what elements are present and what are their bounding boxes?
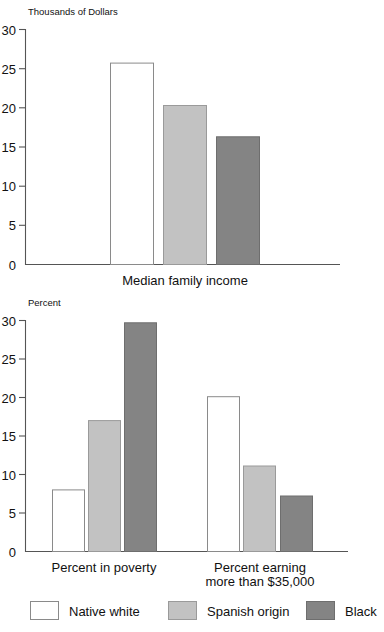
bar-earning-black [281,496,313,552]
chart-median-family-income: Thousands of Dollars 30 25 20 15 10 5 0 … [2,6,340,288]
figure-two-bar-charts: Thousands of Dollars 30 25 20 15 10 5 0 … [0,0,384,632]
bar-poverty-spanish-origin [89,421,121,552]
y-tick-label-bottom-0: 0 [9,545,16,560]
bar-top-spanish-origin [164,106,207,265]
y-axis-title-top: Thousands of Dollars [28,6,118,17]
bar-top-black [217,137,260,265]
y-tick-label-top-5: 5 [9,218,16,233]
y-tick-label-top-15: 15 [2,140,16,155]
y-tick-label-top-30: 30 [2,23,16,38]
y-tick-label-bottom-10: 10 [2,468,16,483]
bar-poverty-native-white [53,490,85,552]
bar-earning-spanish-origin [244,466,276,552]
legend-swatch-black [307,602,335,620]
x-axis-label-poverty: Percent in poverty [52,560,157,575]
bar-top-native-white [111,63,154,264]
y-axis-title-bottom: Percent [28,297,61,308]
x-axis-label-top: Median family income [122,273,248,288]
y-tick-label-bottom-15: 15 [2,429,16,444]
y-tick-label-top-25: 25 [2,62,16,77]
chart-percent: Percent 30 25 20 15 10 5 0 Percent in po… [2,297,348,589]
legend: Native white Spanish origin Black [31,602,378,620]
y-tick-label-bottom-30: 30 [2,314,16,329]
bar-poverty-black [125,323,157,552]
y-tick-label-top-20: 20 [2,101,16,116]
y-tick-label-top-0: 0 [9,258,16,273]
legend-label-spanish-origin: Spanish origin [207,604,289,619]
y-tick-label-bottom-20: 20 [2,391,16,406]
y-tick-label-bottom-5: 5 [9,506,16,521]
bar-earning-native-white [208,397,240,552]
x-axis-label-earning-line1: Percent earning [214,560,306,575]
legend-swatch-native-white [31,602,59,620]
legend-label-native-white: Native white [69,604,140,619]
y-tick-label-top-10: 10 [2,179,16,194]
legend-swatch-spanish-origin [169,602,197,620]
y-tick-label-bottom-25: 25 [2,352,16,367]
x-axis-label-earning-line2: more than $35,000 [205,574,314,589]
legend-label-black: Black [345,604,377,619]
